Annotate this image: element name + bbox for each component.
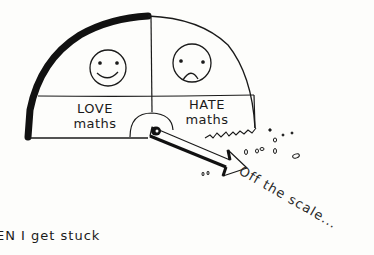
- sad-face-icon: [173, 44, 211, 82]
- torn-edge-icon: [205, 128, 256, 138]
- hate-maths-label: HATE maths: [176, 97, 238, 127]
- mood-gauge-illustration: LOVE maths HATE maths Off the scale... E…: [0, 0, 374, 255]
- caption-text: EN I get stuck: [0, 228, 100, 243]
- smiley-face-icon: [90, 50, 126, 86]
- gauge-center-divider: [151, 16, 152, 112]
- love-label-line1: LOVE: [64, 101, 126, 116]
- hate-label-line2: maths: [176, 112, 238, 127]
- hate-label-line1: HATE: [176, 97, 238, 112]
- love-maths-label: LOVE maths: [64, 101, 126, 131]
- love-label-line2: maths: [64, 116, 126, 131]
- needle-arrow-icon: [150, 127, 247, 177]
